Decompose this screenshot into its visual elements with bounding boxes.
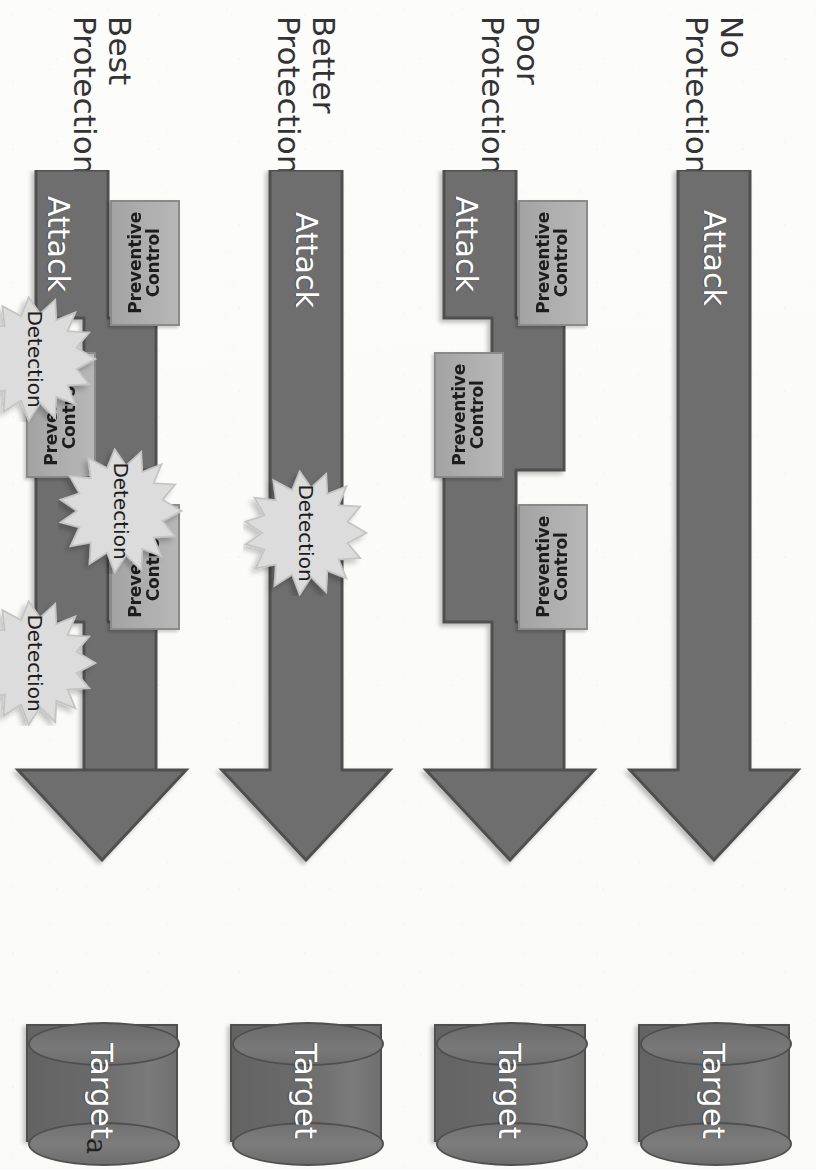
preventive-control-label: Preventive Control — [451, 364, 488, 466]
stray-page-mark: a — [81, 1138, 112, 1154]
figure-canvas: No Protection Attack Target — [0, 0, 816, 1170]
row-caption-line1: Poor — [510, 16, 546, 85]
scenario-row-no-protection: No Protection Attack Target — [612, 0, 816, 1170]
row-caption-no-protection: No Protection — [679, 16, 748, 166]
attack-label: Attack — [289, 212, 324, 308]
row-caption-line2: Protection — [271, 16, 306, 166]
attack-label: Attack — [41, 196, 76, 292]
target-cylinder-poor-protection: Target — [434, 1024, 586, 1142]
detection-burst: Detection — [0, 600, 98, 726]
detection-burst: Detection — [243, 470, 369, 596]
target-label: Target — [638, 1032, 790, 1150]
row-caption-better-protection: Better Protection — [271, 16, 340, 166]
preventive-control-box: Preventive Control — [110, 200, 180, 326]
row-caption-line2: Protection — [475, 16, 510, 166]
detection-label: Detection — [58, 448, 184, 574]
detection-label: Detection — [243, 470, 369, 596]
row-caption-line2: Protection — [67, 16, 102, 166]
target-cylinder-better-protection: Target — [230, 1024, 382, 1142]
target-cylinder-no-protection: Target — [638, 1024, 790, 1142]
row-caption-poor-protection: Poor Protection — [475, 16, 544, 166]
target-cylinder-best-protection: Target — [26, 1024, 178, 1142]
row-caption-line2: Protection — [679, 16, 714, 166]
scenario-row-better-protection: Better Protection Attack — [204, 0, 408, 1170]
target-label: Target — [434, 1032, 586, 1150]
preventive-control-box: Preventive Control — [434, 352, 504, 478]
attack-label: Attack — [449, 196, 484, 292]
scenario-row-best-protection: Best Protection Attack Preventive Contro… — [0, 0, 204, 1170]
preventive-control-label: Preventive Control — [535, 516, 572, 618]
preventive-control-box: Preventive Control — [518, 200, 588, 326]
attack-label: Attack — [697, 210, 732, 306]
preventive-control-label: Preventive Control — [127, 212, 164, 314]
detection-burst: Detection — [0, 296, 98, 422]
target-label: Target — [26, 1032, 178, 1150]
target-label: Target — [230, 1032, 382, 1150]
detection-burst: Detection — [58, 448, 184, 574]
row-caption-line1: Best — [102, 16, 138, 85]
row-caption-line1: No — [714, 16, 750, 59]
detection-label: Detection — [0, 600, 98, 726]
preventive-control-box: Preventive Control — [518, 504, 588, 630]
scenario-row-poor-protection: Poor Protection Attack Preventive Contro… — [408, 0, 612, 1170]
preventive-control-label: Preventive Control — [535, 212, 572, 314]
detection-label: Detection — [0, 296, 98, 422]
row-caption-line1: Better — [306, 16, 342, 114]
row-caption-best-protection: Best Protection — [67, 16, 136, 166]
